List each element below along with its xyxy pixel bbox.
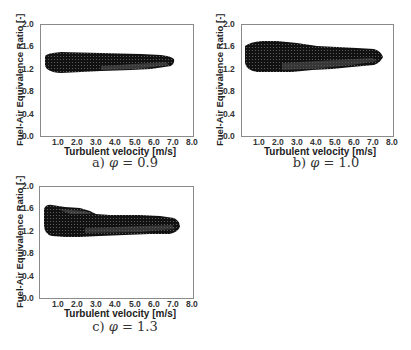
panel-a: Fuel-Air Equivalence Ratio [-] 2.0 1.6 1… xyxy=(0,0,205,170)
caption-value: = 1.0 xyxy=(324,155,360,170)
y-tick: 2.0 xyxy=(22,181,34,191)
panel-b: Fuel-Air Equivalence Ratio [-] 2.0 1.6 1… xyxy=(201,0,411,170)
x-tick: 1.0 xyxy=(52,299,64,309)
plot-area xyxy=(39,186,194,299)
y-tick: 0.8 xyxy=(223,86,235,96)
y-tick: 0.4 xyxy=(223,109,235,119)
caption-prefix: c) xyxy=(92,319,104,334)
scatter-cloud xyxy=(242,25,394,137)
y-axis-label: Fuel-Air Equivalence Ratio [-] xyxy=(14,14,25,147)
y-tick: 1.6 xyxy=(223,41,235,51)
plot-area xyxy=(40,24,194,137)
caption-symbol: φ xyxy=(109,319,118,334)
x-tick: 8.0 xyxy=(186,137,198,147)
x-tick: 8.0 xyxy=(386,137,398,147)
y-tick: 1.2 xyxy=(223,64,235,74)
y-tick: 1.6 xyxy=(22,41,34,51)
y-tick: 0.8 xyxy=(22,86,34,96)
caption: c) φ = 1.3 xyxy=(70,319,180,334)
y-tick: 1.6 xyxy=(22,203,34,213)
y-tick: 0.8 xyxy=(22,248,34,258)
caption: b) φ = 1.0 xyxy=(271,155,381,170)
caption-value: = 1.3 xyxy=(122,319,158,334)
y-tick: 0.4 xyxy=(22,271,34,281)
y-tick: 0.0 xyxy=(22,131,34,141)
y-tick: 0.4 xyxy=(22,109,34,119)
plot-area xyxy=(241,24,394,137)
y-axis-label: Fuel-Air Equivalence Ratio [-] xyxy=(214,14,225,147)
y-tick: 2.0 xyxy=(223,19,235,29)
y-tick: 1.2 xyxy=(22,226,34,236)
scatter-cloud xyxy=(40,187,194,299)
y-tick: 0.0 xyxy=(22,293,34,303)
x-tick: 8.0 xyxy=(186,299,198,309)
y-axis-label: Fuel-Air Equivalence Ratio [-] xyxy=(14,176,25,309)
x-tick: 1.0 xyxy=(52,137,64,147)
y-tick: 1.2 xyxy=(22,64,34,74)
caption-prefix: b) xyxy=(293,155,306,170)
caption-symbol: φ xyxy=(310,155,319,170)
scatter-cloud xyxy=(41,25,194,137)
y-tick: 2.0 xyxy=(22,19,34,29)
y-tick: 0.0 xyxy=(223,131,235,141)
x-axis-label: Turbulent velocity [m/s] xyxy=(64,308,174,319)
panel-c: Fuel-Air Equivalence Ratio [-] 2.0 1.6 1… xyxy=(0,162,205,350)
